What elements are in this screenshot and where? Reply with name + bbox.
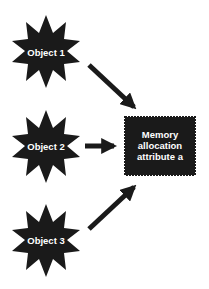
arrow-object-1-to-memory (89, 65, 134, 107)
memory-allocation-line-1: Memory (125, 129, 195, 140)
memory-allocation-line-3: attribute a (125, 151, 195, 162)
object-2-label: Object 2 (16, 142, 76, 152)
memory-allocation-label: Memory allocation attribute a (125, 129, 195, 162)
object-1-label: Object 1 (16, 48, 76, 58)
memory-allocation-line-2: allocation (125, 140, 195, 151)
arrow-object-3-to-memory (89, 187, 134, 229)
object-3-label: Object 3 (16, 236, 76, 246)
